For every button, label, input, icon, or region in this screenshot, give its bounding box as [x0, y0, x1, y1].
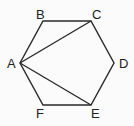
- vertex-label-e: E: [91, 106, 100, 121]
- hexagon-outline: [20, 21, 114, 105]
- vertex-label-a: A: [7, 56, 16, 71]
- vertex-label-b: B: [36, 7, 45, 22]
- vertex-label-d: D: [119, 56, 128, 71]
- diagonal-ae: [20, 63, 91, 105]
- hexagon-svg: ABCDEF: [0, 0, 134, 126]
- vertex-label-f: F: [36, 106, 44, 121]
- hexagon-diagram: ABCDEF: [0, 0, 134, 126]
- diagonal-ac: [20, 21, 91, 63]
- vertex-label-c: C: [92, 7, 101, 22]
